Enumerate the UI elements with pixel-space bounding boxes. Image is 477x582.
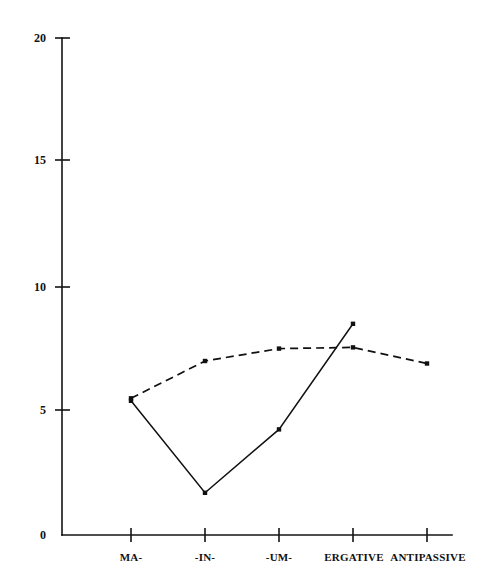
chart-figure: 20 15 10 5 0 MA- -IN- -UM- ERGATIVE ANTI… — [0, 0, 477, 582]
data-point-marker — [203, 359, 207, 363]
x-axis-label-ergative: ERGATIVE — [324, 551, 383, 563]
y-axis-label-5: 5 — [6, 403, 46, 418]
data-point-marker — [351, 345, 355, 349]
data-point-marker — [277, 427, 281, 431]
data-point-marker — [351, 322, 355, 326]
data-point-marker — [203, 491, 207, 495]
data-point-marker — [425, 361, 429, 365]
plot-area — [0, 0, 477, 582]
y-axis-label-15: 15 — [6, 153, 46, 168]
data-point-marker — [277, 346, 281, 350]
x-axis-label-in: -IN- — [195, 551, 215, 563]
x-axis-label-antipassive: ANTIPASSIVE — [390, 551, 465, 563]
x-axis-label-um: -UM- — [266, 551, 292, 563]
series-solid-line — [131, 324, 353, 493]
y-axis-label-0: 0 — [6, 528, 46, 543]
data-point-marker — [129, 399, 133, 403]
y-axis-label-20: 20 — [6, 31, 46, 46]
x-axis-label-ma: MA- — [120, 551, 143, 563]
series-dashed-line — [131, 347, 427, 398]
y-axis-label-10: 10 — [6, 280, 46, 295]
